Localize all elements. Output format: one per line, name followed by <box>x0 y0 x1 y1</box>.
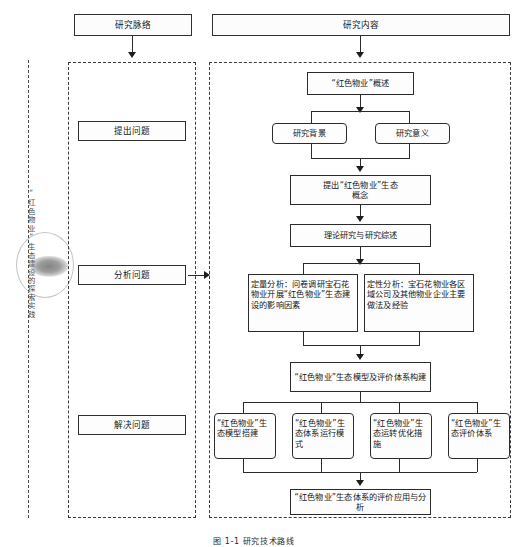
node-outcome-operation-mode[interactable]: “红色物业”生态体系运行模式 <box>292 413 354 459</box>
arrowhead-left-header <box>128 52 136 58</box>
right-column-header: 研究内容 <box>212 14 510 36</box>
node-outcome-model-build[interactable]: “红色物业”生态模型搭建 <box>214 413 276 459</box>
connector-split-bus-top <box>311 111 410 112</box>
arrowhead-to-model-build <box>356 354 364 360</box>
arrowhead-right-header <box>356 52 364 58</box>
connector-analysis-right-down <box>419 263 420 275</box>
connector-merge-left-down <box>311 144 312 158</box>
sidebar-item-stage-solve[interactable]: 解决问题 <box>78 415 186 435</box>
connector-analysis-bus-top <box>303 263 420 264</box>
node-quantitative-label: 定量分析：问卷调研宝石花物业开展“红色物业”生态建设的影响因素 <box>251 279 355 310</box>
node-outcome-optimization-label: “红色物业”生态运转优化措施 <box>373 418 429 449</box>
connector-analysis-right-bottom <box>419 332 420 345</box>
node-final[interactable]: “红色物业”生态体系的评价应用与分析 <box>290 489 431 515</box>
connector-outcome2-bottom <box>321 459 322 472</box>
connector-outcome2-down <box>321 402 322 414</box>
connector-outcome3-bottom <box>399 459 400 472</box>
node-outcome-optimization[interactable]: “红色物业”生态运转优化措施 <box>370 413 432 459</box>
connector-outcome1-down <box>243 402 244 414</box>
node-significance[interactable]: 研究意义 <box>375 123 450 144</box>
arrowhead-to-final <box>356 480 364 486</box>
sidebar-item-stage-analyze[interactable]: 分析问题 <box>78 265 186 285</box>
connector-model-build-down <box>360 392 361 402</box>
figure-canvas: “红色物业”生态建设的探索实践 研究脉络 研究内容 提出问题 分析问题 解决问题… <box>0 0 529 547</box>
node-background[interactable]: 研究背景 <box>272 123 347 144</box>
arrowhead-concept-down <box>356 216 364 222</box>
connector-analysis-left-bottom <box>303 332 304 345</box>
node-model-build[interactable]: “红色物业”生态模型及评价体系构建 <box>290 362 431 392</box>
connector-outcome4-bottom <box>477 459 478 472</box>
connector-analysis-bus-bottom <box>303 345 420 346</box>
connector-outcome4-down <box>477 402 478 414</box>
connector-right-header-down <box>360 36 361 53</box>
node-outcome-evaluation-system-label: “红色物业”生态评价体系 <box>451 418 507 439</box>
connector-merge-right-down <box>409 144 410 158</box>
connector-split-right-down <box>409 111 410 124</box>
node-qualitative[interactable]: 定性分析：宝石花物业各区域公司及其他物业企业主要做法及经验 <box>364 274 474 332</box>
connector-outcome1-bottom <box>243 459 244 472</box>
node-qualitative-label: 定性分析：宝石花物业各区域公司及其他物业企业主要做法及经验 <box>367 279 471 310</box>
left-column-header: 研究脉络 <box>74 14 192 36</box>
connector-left-header-down <box>132 36 133 53</box>
sidebar-item-stage-raise[interactable]: 提出问题 <box>78 121 186 141</box>
side-label: “红色物业”生态建设的探索实践 <box>27 188 35 318</box>
arrowhead-to-concept <box>356 166 364 172</box>
node-outcome-evaluation-system[interactable]: “红色物业”生态评价体系 <box>448 413 510 459</box>
connector-outcomes-bus-top <box>243 402 477 403</box>
node-concept-label: 提出“红色物业”生态 概念 <box>323 180 397 201</box>
node-overview[interactable]: “红色物业”概述 <box>307 72 414 95</box>
figure-caption: 图 1-1 研究技术路线 <box>213 535 294 546</box>
node-review[interactable]: 理论研究与研究综述 <box>290 224 431 247</box>
node-concept[interactable]: 提出“红色物业”生态 概念 <box>290 175 431 205</box>
node-quantitative[interactable]: 定量分析：问卷调研宝石花物业开展“红色物业”生态建设的影响因素 <box>248 274 358 332</box>
connector-analysis-left-down <box>303 263 304 275</box>
node-outcome-operation-mode-label: “红色物业”生态体系运行模式 <box>295 418 351 449</box>
node-outcome-model-build-label: “红色物业”生态模型搭建 <box>217 418 273 439</box>
connector-outcome3-down <box>399 402 400 414</box>
connector-split-left-down <box>311 111 312 124</box>
